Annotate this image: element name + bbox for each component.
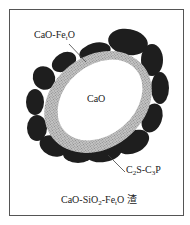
diagram-caption: CaO-SiO2-FetO 渣 bbox=[61, 195, 137, 207]
lime-dissolution-diagram bbox=[0, 0, 190, 225]
core-label: CaO bbox=[87, 94, 105, 104]
particles-label: C2S-C3P bbox=[126, 165, 161, 177]
shell-label: CaO-FetO bbox=[34, 30, 75, 42]
